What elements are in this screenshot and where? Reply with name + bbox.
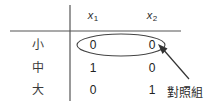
design-matrix-figure: x1 x2 小 0 0 中 1 0 大 0 1 對照組	[0, 0, 219, 105]
cell-small-x1: 0	[73, 39, 113, 51]
row-label-large: 大	[18, 84, 58, 96]
cell-small-x2: 0	[132, 39, 172, 51]
row-label-small: 小	[18, 39, 58, 51]
column-header-x1-label: x	[88, 9, 94, 21]
column-header-x2-subscript: 2	[153, 14, 157, 23]
row-label-medium: 中	[18, 62, 58, 74]
column-header-x2: x2	[132, 10, 172, 23]
column-header-x2-label: x	[147, 9, 153, 21]
cell-medium-x2: 0	[132, 62, 172, 74]
cell-large-x2: 1	[132, 84, 172, 96]
cell-medium-x1: 1	[73, 62, 113, 74]
cell-large-x1: 0	[73, 84, 113, 96]
column-header-x1: x1	[73, 10, 113, 23]
annotation-label: 對照組	[167, 83, 203, 100]
column-header-x1-subscript: 1	[94, 14, 98, 23]
